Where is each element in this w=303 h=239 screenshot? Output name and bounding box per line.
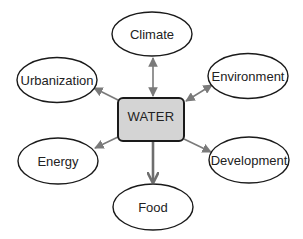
- node-energy-label: Energy: [37, 154, 79, 169]
- edge-water-development: [184, 139, 211, 152]
- edge-water-energy: [95, 137, 118, 148]
- node-food: Food: [113, 184, 193, 230]
- edge-water-environment: [186, 85, 212, 101]
- node-water: WATER: [118, 98, 184, 141]
- node-development: Development: [209, 137, 289, 183]
- node-urbanization: Urbanization: [17, 58, 97, 103]
- node-climate-label: Climate: [130, 27, 174, 42]
- node-food-label: Food: [138, 200, 168, 215]
- water-nexus-diagram: Climate Urbanization Environment WATER E…: [0, 0, 303, 239]
- edge-water-urbanization: [94, 88, 118, 100]
- node-environment-label: Environment: [212, 69, 285, 84]
- node-development-label: Development: [211, 153, 288, 168]
- node-urbanization-label: Urbanization: [21, 73, 94, 88]
- node-climate: Climate: [112, 12, 192, 56]
- node-energy: Energy: [18, 138, 98, 184]
- node-environment: Environment: [208, 54, 288, 99]
- node-water-label: WATER: [128, 109, 175, 124]
